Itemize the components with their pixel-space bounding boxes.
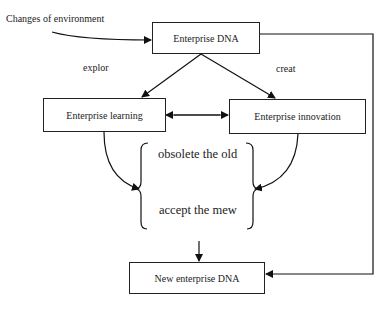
accept-label: accept the mew bbox=[159, 203, 237, 218]
learning-to-brace-arrow bbox=[104, 132, 139, 189]
left-brace bbox=[136, 143, 148, 229]
obsolete-label: obsolete the old bbox=[158, 147, 237, 162]
right-brace bbox=[246, 143, 258, 229]
node-enterprise-dna: Enterprise DNA bbox=[152, 22, 260, 54]
innovation-to-brace-arrow bbox=[255, 134, 298, 189]
create-label: creat bbox=[276, 63, 295, 74]
node-new-enterprise-dna: New enterprise DNA bbox=[129, 262, 265, 294]
create-arrow bbox=[201, 54, 275, 98]
explore-label: explor bbox=[83, 62, 109, 73]
node-enterprise-learning: Enterprise learning bbox=[43, 98, 166, 132]
node-enterprise-innovation: Enterprise innovation bbox=[229, 99, 366, 134]
input-arrow bbox=[52, 32, 151, 40]
explore-arrow bbox=[142, 54, 201, 97]
input-label: Changes of environment bbox=[6, 13, 104, 24]
